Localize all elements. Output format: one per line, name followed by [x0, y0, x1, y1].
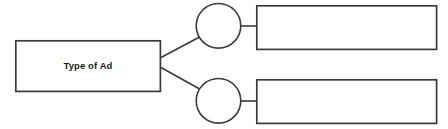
connector-root-to-circle-2	[161, 68, 201, 90]
connector-root-to-circle-1	[161, 37, 201, 58]
branch-circle-2[interactable]	[196, 79, 241, 124]
root-node-box[interactable]	[16, 41, 161, 92]
diagram-canvas: Type of Ad	[0, 0, 448, 129]
branch-node-box-2[interactable]	[257, 80, 437, 124]
branch-node-box-1[interactable]	[257, 6, 437, 50]
branch-circle-1[interactable]	[196, 4, 241, 49]
diagram-shapes	[0, 0, 448, 129]
